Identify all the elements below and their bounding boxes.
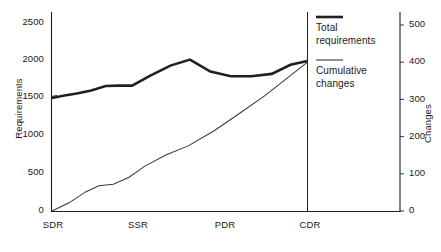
right-axis-tick-label-500: 500 — [409, 18, 441, 29]
right-axis-tick-label-300: 300 — [409, 93, 441, 104]
left-axis-title: Requirements — [13, 61, 24, 157]
chart-figure: Requirements Changes 2500 2000 1500 1000… — [0, 0, 441, 252]
left-axis-tick-label-1000: 1000 — [4, 128, 44, 139]
right-axis-tick-label-0: 0 — [409, 204, 441, 215]
x-axis-tick-label-ssr: SSR — [115, 219, 161, 230]
left-axis-tick-label-0: 0 — [4, 204, 44, 215]
x-axis-tick-label-cdr: CDR — [287, 219, 333, 230]
legend-entry-total-requirements-line2: requirements — [316, 35, 376, 48]
legend-entry-cumulative-changes-line2: changes — [316, 78, 367, 91]
figure-caption — [0, 246, 441, 252]
legend-entry-total-requirements: Total requirements — [316, 22, 376, 47]
x-axis-tick-label-pdr: PDR — [202, 219, 248, 230]
x-axis-tick-label-sdr: SDR — [30, 219, 76, 230]
legend-entry-cumulative-changes: Cumulative changes — [316, 65, 367, 90]
left-axis-tick-label-500: 500 — [4, 166, 44, 177]
left-axis-tick-label-1500: 1500 — [4, 90, 44, 101]
right-axis-tick-label-200: 200 — [409, 130, 441, 141]
right-axis-title: Changes — [422, 76, 433, 172]
series-line-cumulative-changes — [52, 62, 308, 211]
left-axis-tick-label-2500: 2500 — [4, 16, 44, 27]
legend-entry-total-requirements-line1: Total — [316, 22, 376, 35]
legend-entry-cumulative-changes-line1: Cumulative — [316, 65, 367, 78]
right-axis-tick-label-400: 400 — [409, 55, 441, 66]
left-axis-tick-label-2000: 2000 — [4, 53, 44, 64]
right-axis-tick-label-100: 100 — [409, 167, 441, 178]
